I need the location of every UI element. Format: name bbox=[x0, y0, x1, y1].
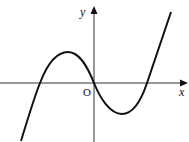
x-axis-label: x bbox=[178, 85, 185, 99]
y-axis-arrow-icon bbox=[91, 6, 98, 14]
origin-label: O bbox=[83, 86, 91, 98]
cubic-graph-diagram: y x O bbox=[0, 0, 189, 142]
y-axis-label: y bbox=[79, 5, 86, 19]
graph-svg: y x O bbox=[0, 0, 189, 142]
cubic-curve bbox=[21, 12, 171, 141]
